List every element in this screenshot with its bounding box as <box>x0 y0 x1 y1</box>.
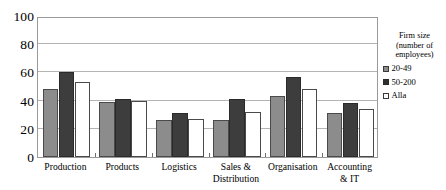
bar <box>229 99 245 157</box>
bar-group <box>322 18 379 157</box>
bar <box>302 89 318 157</box>
y-axis-tick-label: 20 <box>0 123 34 137</box>
x-axis-category-label: Products <box>94 161 151 173</box>
bar <box>327 113 343 157</box>
legend-item[interactable]: Alla <box>383 91 446 100</box>
bar-group <box>95 18 152 157</box>
y-axis-tick-label: 80 <box>0 38 34 52</box>
bar <box>59 72 75 157</box>
x-axis-category-labels: ProductionProductsLogisticsSales &Distri… <box>37 161 378 190</box>
bar <box>245 112 261 157</box>
x-axis-category-label: Production <box>37 161 94 173</box>
bar <box>156 120 172 157</box>
x-axis-category-label: Sales &Distribution <box>208 161 265 184</box>
bar-group <box>38 18 95 157</box>
bar-chart: 020406080100 ProductionProductsLogistics… <box>0 0 446 190</box>
legend-swatch-icon <box>383 66 389 72</box>
bar <box>188 119 204 157</box>
legend-item[interactable]: 50-200 <box>383 78 446 87</box>
x-axis-category-label: Logistics <box>151 161 208 173</box>
x-axis-tick <box>95 153 96 157</box>
bar-group <box>265 18 322 157</box>
x-axis-tick <box>209 153 210 157</box>
y-axis-tick-labels: 020406080100 <box>0 0 34 190</box>
bar <box>172 113 188 157</box>
legend-title: Firm size (number of employees) <box>383 31 446 60</box>
bar <box>43 89 59 157</box>
bar <box>99 102 115 157</box>
gridline <box>38 43 377 44</box>
y-axis-tick-label: 40 <box>0 95 34 109</box>
bar-group <box>152 18 209 157</box>
x-axis-tick <box>322 153 323 157</box>
y-axis-tick-label: 100 <box>0 10 34 24</box>
bar <box>343 103 359 157</box>
bar <box>213 120 229 157</box>
y-axis-tick-label: 60 <box>0 66 34 80</box>
legend-swatch-icon <box>383 93 389 99</box>
plot-area <box>37 17 378 158</box>
bar <box>131 101 147 157</box>
x-axis-tick <box>152 153 153 157</box>
x-axis-category-label: Organisation <box>264 161 321 173</box>
bar-group <box>209 18 266 157</box>
bar <box>286 77 302 157</box>
bar <box>270 96 286 157</box>
legend-item[interactable]: 20-49 <box>383 64 446 73</box>
x-axis-category-label: Accounting& IT <box>321 161 378 184</box>
legend-item-label: 50-200 <box>392 78 416 87</box>
legend-item-label: 20-49 <box>392 64 412 73</box>
x-axis-tick <box>265 153 266 157</box>
gridline <box>38 71 377 72</box>
legend-items: 20-4950-200Alla <box>383 64 446 100</box>
bar <box>359 109 375 157</box>
legend-swatch-icon <box>383 79 389 85</box>
legend-item-label: Alla <box>392 91 407 100</box>
bar <box>75 82 91 157</box>
y-axis-tick-label: 0 <box>0 151 34 165</box>
legend: Firm size (number of employees) 20-4950-… <box>383 31 446 100</box>
bars-layer <box>38 18 377 157</box>
bar <box>115 99 131 157</box>
